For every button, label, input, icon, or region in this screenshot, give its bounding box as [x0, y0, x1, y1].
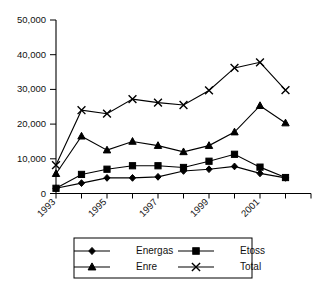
marker-cross	[205, 87, 213, 95]
marker-triangle	[78, 132, 85, 139]
marker-triangle	[205, 142, 212, 149]
marker-diamond	[257, 170, 263, 177]
series-enre	[52, 102, 289, 177]
x-axis-labels: 19931995199719992001	[35, 196, 262, 219]
legend-item-total[interactable]: Total	[178, 261, 261, 272]
series-layer	[52, 58, 289, 191]
marker-diamond	[104, 174, 110, 181]
y-axis-tick-label: 40,000	[17, 49, 46, 60]
legend-label: Etoss	[240, 245, 265, 256]
chart-container: 010,00020,00030,00040,00050,000 19931995…	[0, 0, 324, 283]
marker-square	[104, 166, 110, 172]
x-axis-ticks	[56, 194, 311, 199]
legend-label: Enre	[136, 261, 158, 272]
marker-triangle	[88, 263, 96, 270]
legend-item-etoss[interactable]: Etoss	[178, 245, 265, 256]
series-line	[56, 106, 286, 174]
marker-square	[53, 185, 59, 191]
marker-square	[129, 163, 135, 169]
y-axis-labels: 010,00020,00030,00040,00050,000	[17, 14, 46, 199]
marker-square	[231, 151, 237, 157]
marker-square	[257, 164, 263, 170]
marker-diamond	[129, 174, 135, 181]
marker-triangle	[129, 138, 136, 145]
marker-square	[282, 174, 288, 180]
marker-diamond	[206, 166, 212, 173]
marker-square	[193, 248, 200, 255]
y-axis-tick-label: 20,000	[17, 118, 46, 129]
marker-diamond	[78, 180, 84, 187]
legend-item-energas[interactable]: Energas	[74, 245, 173, 256]
marker-square	[78, 171, 84, 177]
y-axis-tick-label: 0	[41, 188, 46, 199]
x-axis-tick-label: 1997	[137, 196, 160, 219]
legend-label: Total	[240, 261, 261, 272]
x-axis-tick-label: 1993	[35, 196, 58, 219]
legend: EnergasEtossEnreTotal	[74, 245, 265, 272]
y-axis-tick-label: 50,000	[17, 14, 46, 25]
marker-square	[180, 164, 186, 170]
marker-cross	[256, 58, 264, 66]
marker-square	[155, 163, 161, 169]
marker-square	[206, 158, 212, 164]
x-axis-tick-label: 1999	[188, 196, 211, 219]
x-axis-tick-label: 2001	[239, 196, 262, 219]
x-axis-tick-label: 1995	[86, 196, 109, 219]
series-line	[56, 62, 286, 165]
marker-triangle	[256, 102, 263, 109]
line-chart: 010,00020,00030,00040,00050,000 19931995…	[0, 0, 324, 283]
legend-item-enre[interactable]: Enre	[74, 261, 158, 272]
marker-cross	[231, 64, 239, 72]
y-axis-tick-label: 30,000	[17, 83, 46, 94]
series-line	[56, 166, 286, 188]
series-energas	[53, 163, 289, 192]
legend-label: Energas	[136, 245, 173, 256]
marker-diamond	[89, 247, 96, 254]
marker-diamond	[155, 173, 161, 180]
y-axis-tick-label: 10,000	[17, 153, 46, 164]
marker-triangle	[282, 119, 289, 126]
marker-diamond	[231, 163, 237, 170]
marker-cross	[282, 86, 290, 94]
series-total	[52, 58, 289, 169]
